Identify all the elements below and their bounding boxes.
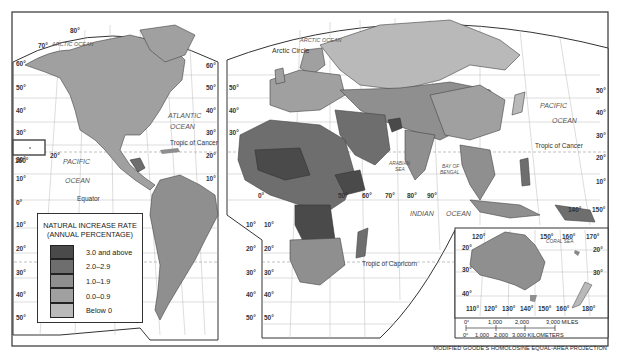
legend-swatch	[50, 274, 74, 289]
svg-text:20°: 20°	[462, 244, 472, 251]
philippines	[520, 158, 530, 186]
svg-text:20°: 20°	[246, 245, 256, 252]
svg-text:160°: 160°	[562, 233, 576, 240]
svg-text:20°: 20°	[264, 245, 274, 252]
svg-text:50°: 50°	[264, 314, 274, 321]
svg-text:80°: 80°	[70, 27, 80, 34]
label-bengal-2: BENGAL	[440, 170, 460, 175]
svg-text:20°: 20°	[206, 152, 216, 159]
svg-text:30°: 30°	[16, 129, 26, 136]
map-legend: NATURAL INCREASE RATE (ANNUAL PERCENTAGE…	[37, 213, 143, 323]
svg-text:170°: 170°	[586, 233, 600, 240]
svg-text:50°: 50°	[229, 84, 239, 91]
label-atlantic-1: ATLANTIC	[167, 112, 202, 119]
svg-text:110°: 110°	[466, 305, 479, 312]
legend-swatch	[50, 288, 74, 303]
svg-text:30°: 30°	[462, 266, 472, 273]
label-indian-1: INDIAN	[410, 210, 435, 217]
legend-row-2-2.9: 2.0–2.9	[50, 260, 132, 275]
svg-text:140°: 140°	[568, 206, 582, 213]
svg-text:50°: 50°	[338, 192, 348, 199]
svg-text:40°: 40°	[16, 291, 26, 298]
label-indian-2: OCEAN	[446, 210, 472, 217]
svg-text:130°: 130°	[502, 305, 516, 312]
label-pacific-east-1: PACIFIC	[540, 102, 568, 109]
hawaii-inset	[13, 140, 45, 155]
svg-text:30°: 30°	[229, 129, 239, 136]
projection-caption: MODIFIED GOODE'S HOMOLOSINE EQUAL-AREA P…	[433, 345, 607, 351]
svg-text:50°: 50°	[246, 314, 256, 321]
svg-text:20°: 20°	[593, 246, 603, 253]
svg-text:60°: 60°	[362, 192, 372, 199]
svg-text:40°: 40°	[16, 107, 26, 114]
legend-swatch	[50, 303, 74, 318]
legend-swatch	[50, 245, 74, 260]
label-equator: Equator	[77, 195, 101, 203]
svg-text:1,000: 1,000	[475, 332, 489, 338]
legend-swatch	[50, 259, 74, 274]
svg-text:40°: 40°	[264, 291, 274, 298]
svg-text:150°: 150°	[538, 305, 552, 312]
svg-text:0°: 0°	[463, 332, 468, 338]
svg-text:20°: 20°	[596, 154, 606, 161]
svg-text:3,000 MILES: 3,000 MILES	[546, 319, 579, 325]
label-atlantic-2: OCEAN	[170, 123, 196, 130]
svg-text:30°: 30°	[264, 269, 274, 276]
legend-title: NATURAL INCREASE RATE (ANNUAL PERCENTAGE…	[38, 221, 142, 239]
svg-text:160°: 160°	[15, 157, 29, 164]
svg-text:40°: 40°	[206, 107, 216, 114]
svg-text:30°: 30°	[16, 269, 26, 276]
svg-text:70°: 70°	[385, 192, 395, 199]
svg-text:30°: 30°	[206, 129, 216, 136]
svg-text:10°: 10°	[206, 175, 216, 182]
legend-row-below-0: Below 0	[50, 303, 132, 318]
svg-text:0°: 0°	[464, 319, 469, 325]
label-arabian-1: ARABIAN	[388, 161, 411, 166]
svg-text:160°: 160°	[556, 305, 570, 312]
svg-text:120°: 120°	[472, 233, 486, 240]
svg-text:60°: 60°	[16, 60, 26, 67]
svg-text:50°: 50°	[206, 84, 216, 91]
svg-text:180°: 180°	[582, 305, 596, 312]
legend-row-0-0.9: 0.0–0.9	[50, 289, 132, 304]
label-pacific-west-1: PACIFIC	[63, 158, 91, 165]
svg-text:30°: 30°	[246, 269, 256, 276]
label-bengal-1: BAY OF	[442, 164, 460, 169]
label-pacific-east-2: OCEAN	[552, 117, 578, 124]
label-tropic-capricorn: Tropic of Capricorn	[362, 260, 417, 268]
svg-text:3,000 KILOMETERS: 3,000 KILOMETERS	[512, 332, 564, 338]
svg-text:20°: 20°	[50, 152, 60, 159]
svg-text:40°: 40°	[229, 107, 239, 114]
label-tropic-cancer-west: Tropic of Cancer	[170, 139, 219, 147]
legend-rows: 3.0 and above 2.0–2.9 1.0–1.9 0.0–0.9 Be…	[50, 245, 132, 318]
svg-text:50°: 50°	[16, 314, 26, 321]
svg-text:40°: 40°	[596, 109, 606, 116]
svg-text:30°: 30°	[596, 132, 606, 139]
svg-text:50°: 50°	[16, 84, 26, 91]
svg-text:2,000: 2,000	[494, 332, 508, 338]
svg-text:10°: 10°	[246, 221, 256, 228]
svg-text:0°: 0°	[16, 199, 23, 206]
svg-text:10°: 10°	[16, 221, 26, 228]
svg-text:50°: 50°	[596, 87, 606, 94]
svg-text:1,000: 1,000	[488, 319, 502, 325]
label-arabian-2: SEA	[395, 167, 405, 172]
svg-text:60°: 60°	[206, 62, 216, 69]
svg-text:80°: 80°	[407, 192, 417, 199]
svg-text:140°: 140°	[520, 305, 534, 312]
svg-text:150°: 150°	[540, 233, 554, 240]
svg-text:40°: 40°	[462, 290, 472, 297]
svg-text:0°: 0°	[258, 192, 265, 199]
legend-row-1-1.9: 1.0–1.9	[50, 274, 132, 289]
svg-text:20°: 20°	[16, 245, 26, 252]
label-arctic-ocean-east: ARCTIC OCEAN	[299, 37, 342, 43]
svg-text:10°: 10°	[264, 221, 274, 228]
label-pacific-west-2: OCEAN	[65, 177, 91, 184]
svg-text:30°: 30°	[593, 269, 603, 276]
svg-text:40°: 40°	[246, 291, 256, 298]
label-arctic-circle: Arctic Circle	[272, 47, 309, 54]
label-arctic-ocean-west: ARCTIC OCEAN	[51, 41, 94, 47]
uk	[275, 68, 285, 84]
svg-text:10°: 10°	[16, 175, 26, 182]
svg-text:70°: 70°	[38, 42, 48, 49]
